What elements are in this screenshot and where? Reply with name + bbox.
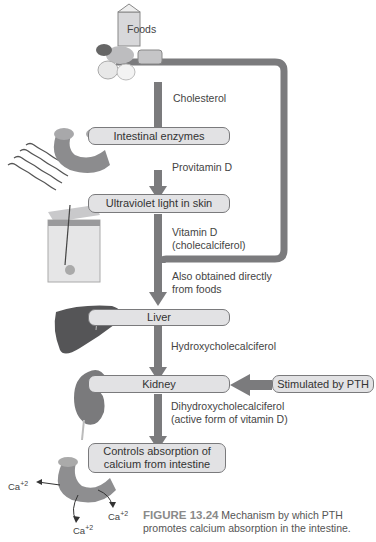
calcium-ion-right: Ca+2 (108, 510, 128, 522)
also-obtained-label: Also obtained directly from foods (172, 270, 272, 295)
figure-number: FIGURE 13.24 (143, 509, 218, 521)
kidney-box: Kidney (88, 375, 230, 393)
controls-line2: calcium from intestine (104, 458, 210, 471)
uv-skin-box: Ultraviolet light in skin (88, 194, 230, 213)
foods-icon (96, 4, 162, 80)
foods-label: Foods (127, 23, 156, 36)
calcium-ion-bottom: Ca+2 (73, 524, 93, 536)
controls-line1: Controls absorption of (103, 445, 211, 458)
intestinal-enzymes-box: Intestinal enzymes (88, 127, 230, 145)
cholesterol-label: Cholesterol (173, 92, 226, 105)
skin-icon (48, 205, 100, 282)
liver-box: Liver (88, 309, 230, 326)
pth-box: Stimulated by PTH (272, 375, 374, 393)
calcium-ion-left: Ca+2 (8, 480, 28, 492)
controls-absorption-box: Controls absorption of calcium from inte… (88, 443, 226, 473)
vitamin-d-label: Vitamin D (cholecalciferol) (172, 226, 246, 251)
hydroxy-label: Hydroxycholecalciferol (171, 340, 276, 353)
figure-caption: FIGURE 13.24 Mechanism by which PTH prom… (143, 509, 351, 535)
dihydroxy-label: Dihydroxycholecalciferol (active form of… (171, 400, 288, 425)
provitamin-label: Provitamin D (172, 161, 232, 174)
